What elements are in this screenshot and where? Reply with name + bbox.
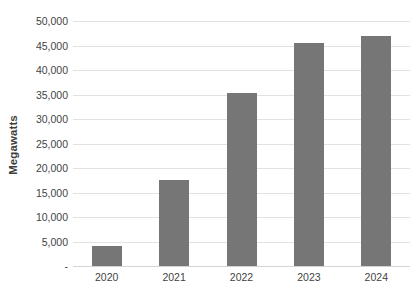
x-axis-tick-label: 2020: [77, 271, 137, 283]
x-axis-tick-label: 2023: [279, 271, 339, 283]
y-axis-tick-label: 30,000: [20, 113, 68, 125]
x-axis-tick-label: 2024: [346, 271, 406, 283]
y-axis-tick-label: 25,000: [20, 138, 68, 150]
plot-area: [73, 21, 410, 266]
bar: [92, 246, 122, 266]
bar: [294, 43, 324, 266]
y-axis-tick-label: 45,000: [20, 40, 68, 52]
y-axis-tick-label: 20,000: [20, 162, 68, 174]
bar: [159, 180, 189, 266]
y-axis-title-text: Megawatts: [7, 115, 19, 175]
bar-chart: Megawatts -5,00010,00015,00020,00025,000…: [0, 0, 418, 308]
y-axis-tick-label: -: [20, 260, 68, 272]
y-axis-tick-labels: -5,00010,00015,00020,00025,00030,00035,0…: [20, 0, 68, 290]
category-axis-line: [73, 266, 410, 267]
y-axis-tick-label: 15,000: [20, 187, 68, 199]
y-axis-tick-label: 35,000: [20, 89, 68, 101]
bars-group: [73, 21, 410, 266]
x-axis-tick-label: 2021: [144, 271, 204, 283]
y-axis-tick-label: 50,000: [20, 15, 68, 27]
bar: [361, 36, 391, 266]
y-axis-tick-label: 40,000: [20, 64, 68, 76]
x-axis-tick-label: 2022: [212, 271, 272, 283]
y-axis-tick-label: 10,000: [20, 211, 68, 223]
y-axis-tick-label: 5,000: [20, 236, 68, 248]
x-axis-tick-labels: 20202021202220232024: [73, 271, 410, 291]
bar: [227, 93, 257, 266]
